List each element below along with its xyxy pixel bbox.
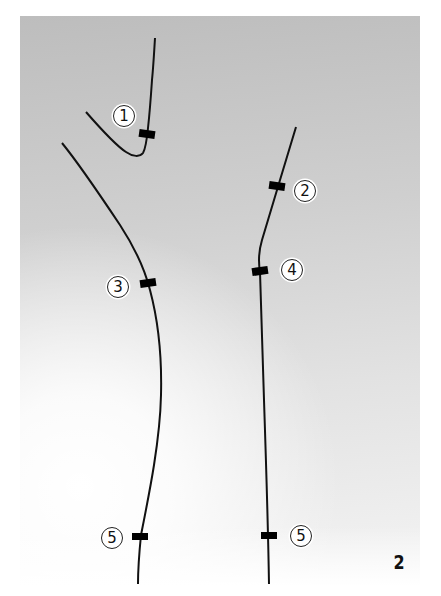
marker-tag-2: [269, 181, 286, 191]
marker-tag-5-left: [132, 533, 148, 540]
stem-left-upper-branch: [86, 38, 155, 156]
marker-tag-4: [252, 266, 269, 276]
callout-label-2: 2: [294, 180, 316, 202]
figure-number: 2: [393, 550, 404, 574]
stem-right-main: [259, 127, 296, 584]
callout-label-5-left: 5: [101, 527, 123, 549]
callout-label-4: 4: [281, 259, 303, 281]
marker-tag-5-right: [261, 532, 277, 539]
callout-label-3: 3: [107, 276, 129, 298]
callout-label-5-right: 5: [290, 525, 312, 547]
marker-tag-3: [140, 278, 157, 288]
marker-tag-1: [139, 129, 156, 139]
stem-left-main: [62, 143, 161, 584]
plant-stem-diagram: [0, 0, 441, 596]
callout-label-1: 1: [113, 105, 135, 127]
